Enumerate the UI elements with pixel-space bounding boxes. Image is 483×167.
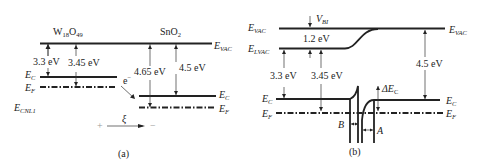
- arrow-up-icon: [74, 45, 78, 49]
- arrow-up-icon: [319, 50, 323, 54]
- panel-b: EVAC EVAC ELVAC VBI 1.2 eV 3.3 eV 3.45 e…: [247, 13, 468, 158]
- arrow-down-icon: [74, 82, 78, 86]
- panel-b-caption: (b): [349, 146, 361, 158]
- w18o49-workfunction-value: 3.45 eV: [311, 70, 343, 81]
- arrow-left-icon: [351, 123, 354, 126]
- field-arrow-icon: [138, 124, 145, 128]
- w18o49-workfunction-value: 3.45 eV: [68, 57, 100, 68]
- sno2-affinity-value: 4.5 eV: [179, 62, 206, 73]
- panel-a: W18O49 SnO2 EVAC EC EF ECNL1 3.3 eV 3.45…: [13, 26, 233, 160]
- minus-sign: −: [150, 120, 156, 131]
- arrow-down-icon: [46, 72, 50, 76]
- ef-right-label: EF: [445, 108, 457, 120]
- w18o49-affinity-value: 3.3 eV: [33, 56, 60, 67]
- ec-left-label: EC: [24, 69, 36, 81]
- plus-sign: +: [97, 120, 103, 131]
- band-diagram: W18O49 SnO2 EVAC EC EF ECNL1 3.3 eV 3.45…: [0, 0, 483, 167]
- elvac-label: ELVAC: [247, 43, 270, 55]
- w18o49-affinity-value: 3.3 eV: [270, 70, 297, 81]
- sno2-workfunction-value: 4.65 eV: [134, 66, 166, 77]
- material-sno2-label: SnO2: [160, 26, 181, 38]
- arrow-down-icon: [282, 94, 286, 98]
- arrow-up-icon: [376, 86, 380, 90]
- region-b-label: B: [338, 119, 344, 130]
- delta-ec-label: ΔEC: [381, 83, 398, 95]
- field-label: ξ: [122, 113, 127, 125]
- arrow-down-icon: [376, 107, 380, 111]
- evac-label: EVAC: [213, 40, 233, 52]
- material-w18o49-label: W18O49: [53, 26, 83, 38]
- ec-right-label: EC: [218, 89, 230, 101]
- evac-right-label: EVAC: [448, 24, 468, 36]
- arrow-up-icon: [148, 45, 152, 49]
- ec-left-label: EC: [261, 93, 273, 105]
- w18o49-conduction-band: [276, 86, 358, 143]
- region-a-label: A: [376, 125, 384, 136]
- ec-right-label: EC: [445, 95, 457, 107]
- vbi-label: VBI: [316, 13, 329, 25]
- arrow-up-icon: [423, 30, 427, 34]
- electron-label: e−: [123, 74, 131, 86]
- arrow-down-icon: [423, 95, 427, 99]
- vbi-value: 1.2 eV: [303, 33, 330, 44]
- arrow-down-icon: [148, 103, 152, 107]
- sno2-band-bend: [362, 100, 374, 143]
- arrow-right-icon: [370, 129, 373, 132]
- arrow-up-icon: [46, 45, 50, 49]
- arrow-down-icon: [174, 91, 178, 95]
- arrow-up-icon: [308, 50, 312, 54]
- arrow-left-icon: [363, 129, 366, 132]
- arrow-up-icon: [174, 45, 178, 49]
- sno2-affinity-value: 4.5 eV: [416, 58, 443, 69]
- arrow-up-icon: [282, 50, 286, 54]
- arrow-down-icon: [319, 107, 323, 111]
- ef-left-label: EF: [261, 108, 273, 120]
- panel-a-caption: (a): [118, 148, 129, 160]
- evac-left-label: EVAC: [247, 22, 267, 34]
- ef-right-label: EF: [218, 103, 230, 115]
- ef-left-label: EF: [24, 82, 36, 94]
- ecnl-label: ECNL1: [13, 102, 36, 114]
- vbi-arrow-icon: [308, 23, 312, 27]
